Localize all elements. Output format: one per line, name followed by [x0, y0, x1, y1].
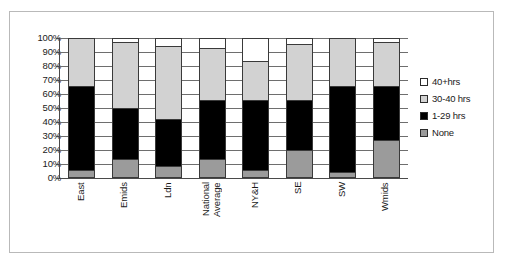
bar-segment[interactable] [374, 87, 399, 141]
x-axis-tick-label: Ldn [163, 182, 174, 244]
bar-segment[interactable] [113, 109, 138, 160]
legend-label: 30-40 hrs [432, 94, 470, 104]
bar-segment[interactable] [200, 39, 225, 49]
x-axis-tick-label: East [76, 182, 87, 244]
x-axis-label-slot: SE [277, 182, 321, 244]
y-axis: 0%10%20%30%40%50%60%70%80%90%100% [16, 38, 61, 178]
bar-slot [60, 38, 104, 178]
x-axis-label-slot: East [59, 182, 103, 244]
bar-slot [147, 38, 191, 178]
bar-segment[interactable] [243, 101, 268, 171]
stacked-bar[interactable] [155, 38, 182, 178]
x-axis-label-slot: Wmids [364, 182, 408, 244]
bar-segment[interactable] [287, 101, 312, 151]
plot-wrapper: 0%10%20%30%40%50%60%70%80%90%100% EastEm… [10, 12, 495, 254]
bar-segment[interactable] [200, 160, 225, 177]
legend-swatch-icon [420, 129, 428, 137]
x-axis-label-slot: National Average [190, 182, 234, 244]
x-axis-label-slot: Emids [103, 182, 147, 244]
stacked-bar[interactable] [242, 38, 269, 178]
chart-container: 0%10%20%30%40%50%60%70%80%90%100% EastEm… [9, 11, 494, 253]
legend-label: 1-29 hrs [432, 111, 465, 121]
bar-segment[interactable] [330, 87, 355, 173]
x-axis-tick-label: SE [293, 182, 304, 244]
y-axis-tick [56, 178, 60, 179]
bar-segment[interactable] [156, 167, 181, 177]
stacked-bar[interactable] [199, 38, 226, 178]
legend-label: 40+hrs [432, 77, 460, 87]
bar-slot [104, 38, 148, 178]
bar-segment[interactable] [330, 173, 355, 177]
legend-swatch-icon [420, 78, 428, 86]
bar-segment[interactable] [287, 151, 312, 177]
legend-label: None [432, 128, 454, 138]
legend-swatch-icon [420, 112, 428, 120]
bar-segment[interactable] [330, 39, 355, 87]
x-axis-tick-label: Wmids [380, 182, 391, 244]
bar-segment[interactable] [243, 62, 268, 101]
bar-segment[interactable] [243, 39, 268, 62]
bar-slot [365, 38, 409, 178]
x-axis: EastEmidsLdnNational AverageNY&HSESWWmid… [59, 182, 407, 244]
bar-segment[interactable] [200, 101, 225, 160]
x-axis-tick-label: NY&H [250, 182, 261, 244]
bar-segment[interactable] [113, 160, 138, 177]
bar-segment[interactable] [287, 45, 312, 102]
bar-segment[interactable] [69, 171, 94, 177]
bar-segment[interactable] [69, 39, 94, 87]
stacked-bar[interactable] [286, 38, 313, 178]
legend-item[interactable]: 40+hrs [420, 76, 492, 88]
bar-segment[interactable] [243, 171, 268, 177]
x-axis-label-slot: Ldn [146, 182, 190, 244]
bar-segment[interactable] [69, 87, 94, 171]
bar-slot [191, 38, 235, 178]
x-axis-label-slot: SW [320, 182, 364, 244]
bar-segment[interactable] [374, 141, 399, 177]
stacked-bar[interactable] [68, 38, 95, 178]
bar-slot [234, 38, 278, 178]
bar-slot [321, 38, 365, 178]
bar-segment[interactable] [156, 47, 181, 120]
x-axis-label-slot: NY&H [233, 182, 277, 244]
x-axis-tick-label: SW [337, 182, 348, 244]
bar-series-group [60, 38, 408, 178]
legend-item[interactable]: 30-40 hrs [420, 93, 492, 105]
plot-area [59, 38, 408, 179]
bar-segment[interactable] [156, 120, 181, 167]
legend-item[interactable]: 1-29 hrs [420, 110, 492, 122]
chart-legend: 40+hrs30-40 hrs1-29 hrsNone [420, 76, 492, 144]
x-axis-tick-label: Emids [119, 182, 130, 244]
bar-segment[interactable] [156, 39, 181, 47]
legend-item[interactable]: None [420, 127, 492, 139]
bar-segment[interactable] [374, 43, 399, 87]
bar-segment[interactable] [200, 49, 225, 101]
stacked-bar[interactable] [373, 38, 400, 178]
legend-swatch-icon [420, 95, 428, 103]
bar-segment[interactable] [113, 43, 138, 109]
stacked-bar[interactable] [329, 38, 356, 178]
bar-slot [278, 38, 322, 178]
x-axis-tick-label: National Average [201, 182, 222, 244]
stacked-bar[interactable] [112, 38, 139, 178]
